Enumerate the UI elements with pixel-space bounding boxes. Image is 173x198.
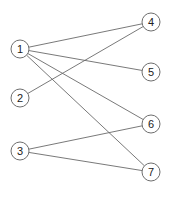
node-4: 4 bbox=[142, 13, 160, 31]
edge-3-7 bbox=[29, 152, 142, 170]
node-3: 3 bbox=[11, 142, 29, 160]
edge-2-4 bbox=[28, 27, 143, 94]
edge-1-6 bbox=[28, 53, 143, 119]
bipartite-graph: 1234567 bbox=[0, 0, 173, 198]
node-5: 5 bbox=[142, 63, 160, 81]
node-label: 1 bbox=[17, 43, 23, 55]
edge-1-4 bbox=[29, 24, 142, 47]
node-label: 6 bbox=[148, 118, 154, 130]
node-1: 1 bbox=[11, 40, 29, 58]
node-7: 7 bbox=[142, 163, 160, 181]
node-2: 2 bbox=[11, 89, 29, 107]
node-label: 7 bbox=[148, 166, 154, 178]
nodes-layer: 1234567 bbox=[11, 13, 160, 181]
node-label: 4 bbox=[148, 16, 154, 28]
edge-3-6 bbox=[29, 126, 142, 149]
node-6: 6 bbox=[142, 115, 160, 133]
edges-layer bbox=[27, 24, 145, 171]
node-label: 2 bbox=[17, 92, 23, 104]
node-label: 5 bbox=[148, 66, 154, 78]
node-label: 3 bbox=[17, 145, 23, 157]
